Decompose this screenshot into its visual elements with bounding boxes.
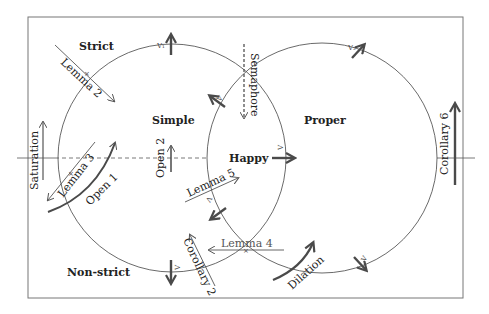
lemma3-cross: ×: [68, 170, 74, 178]
mark-right-top: V₂: [347, 44, 356, 52]
label-corollary2: Corollary 2: [180, 236, 218, 298]
mark-top-left: V₁: [156, 42, 165, 50]
label-saturation: Saturation: [28, 131, 41, 190]
label-open1: Open 1: [83, 171, 121, 209]
mark-bottom-right: V: [359, 254, 369, 264]
venn-diagram: Strict Simple Proper Happy Non-strict Le…: [0, 0, 489, 314]
mark-upper-mid: V: [215, 94, 226, 105]
mark-happy: V: [277, 144, 285, 151]
label-strict: Strict: [79, 40, 115, 53]
label-semaphore: Semaphore: [248, 53, 261, 117]
label-proper: Proper: [304, 114, 346, 127]
label-lemma2: Lemma 2: [58, 56, 105, 101]
label-corollary6: Corollary 6: [438, 113, 451, 175]
lemma2-cross: ×: [84, 70, 90, 78]
lemma4-cross: ×: [243, 247, 249, 255]
mark-bottom-left: V: [174, 264, 182, 271]
label-simple: Simple: [152, 114, 195, 127]
label-lemma5: Lemma 5: [185, 166, 237, 200]
label-happy: Happy: [229, 152, 269, 165]
label-open2: Open 2: [154, 138, 167, 178]
label-non-strict: Non-strict: [67, 266, 131, 279]
